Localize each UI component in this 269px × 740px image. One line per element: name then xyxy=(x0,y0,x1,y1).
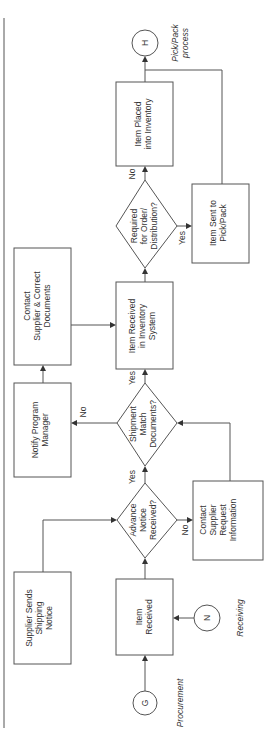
process-text: Information xyxy=(228,498,238,541)
connector-n: N Receiving xyxy=(194,599,245,637)
decision-advance-notice-received: Advance Notice Received? xyxy=(117,483,177,558)
required-yes-label: Yes xyxy=(177,231,187,245)
process-notify-program-manager: Notify Program Manager xyxy=(14,383,71,477)
connector-h-label: H xyxy=(140,40,150,46)
process-text: Item Placed xyxy=(133,101,143,146)
process-text: System xyxy=(147,312,157,340)
process-item-placed-inventory: Item Placed into Inventory xyxy=(116,82,173,166)
connector-g-caption: Procurement xyxy=(175,678,185,727)
connector-g-label: G xyxy=(140,700,150,707)
connector-h: H Pick/Pack process xyxy=(132,24,190,62)
decision-required-for-order: Required for Order/ Distribution? xyxy=(116,180,177,268)
process-text: Supplier xyxy=(208,504,218,535)
process-contact-supplier-request-info: Contact Supplier Request Information xyxy=(193,481,263,560)
decision-text: for Order/ xyxy=(139,207,149,244)
process-text: Contact xyxy=(22,291,32,321)
connector-h-caption-2: process xyxy=(180,27,190,59)
process-text: Supplier Sends xyxy=(24,589,34,647)
process-text: Shipping xyxy=(34,601,44,634)
decision-text: Advance xyxy=(128,503,138,536)
process-text: Supplier & Correct xyxy=(32,271,42,341)
process-text: Documents xyxy=(42,285,52,328)
process-text: Notify Program xyxy=(30,402,40,459)
process-text: Item Sent to xyxy=(208,200,218,246)
process-text: Received xyxy=(144,599,154,635)
process-text: Contact xyxy=(198,505,208,535)
decision-text: Documents? xyxy=(148,400,158,448)
process-text: Item Received xyxy=(127,299,137,354)
process-supplier-sends-notice: Supplier Sends Shipping Notice xyxy=(14,572,71,664)
shipment-match-no-label: No xyxy=(78,406,88,417)
process-item-sent-pick-pack: Item Sent to Pick/Pack xyxy=(192,184,249,263)
connector-n-label: N xyxy=(202,615,212,621)
process-text: Pick/Pack xyxy=(218,204,228,242)
connector-h-caption-1: Pick/Pack xyxy=(170,24,180,62)
decision-text: Match xyxy=(138,412,148,435)
process-contact-supplier-correct-docs: Contact Supplier & Correct Documents xyxy=(14,248,71,365)
advance-notice-yes-label: Yes xyxy=(127,470,137,484)
decision-shipment-match-documents: Shipment Match Documents? xyxy=(117,383,177,466)
required-no-label: No xyxy=(127,168,137,179)
flowchart-canvas: G Procurement N Receiving H Pick/Pack pr… xyxy=(0,0,269,740)
process-item-received-inventory-system: Item Received in Inventory System xyxy=(116,282,173,369)
process-text: Item xyxy=(134,609,144,626)
decision-text: Notice xyxy=(138,508,148,532)
process-text: into Inventory xyxy=(143,98,153,150)
advance-notice-no-label: No xyxy=(180,524,190,535)
decision-text: Received? xyxy=(148,500,158,540)
process-text: in Inventory xyxy=(137,303,147,348)
process-text: Request xyxy=(218,504,228,536)
connector-g: G Procurement xyxy=(133,678,185,727)
connector-n-caption: Receiving xyxy=(235,599,245,637)
process-text: Notice xyxy=(44,606,54,630)
process-text: Manager xyxy=(40,413,50,447)
shipment-match-yes-label: Yes xyxy=(127,371,137,385)
decision-text: Shipment xyxy=(128,405,138,442)
decision-text: Distribution? xyxy=(149,202,159,250)
decision-text: Required xyxy=(129,208,139,243)
process-item-received: Item Received xyxy=(116,579,173,655)
